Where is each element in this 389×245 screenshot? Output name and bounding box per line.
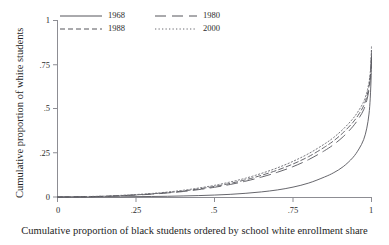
legend-line-sample-solid: [60, 11, 102, 21]
legend-label-1980: 1980: [203, 11, 220, 20]
y-axis-title: Cumulative proportion of white students: [14, 18, 26, 208]
y-tick-marks: [53, 21, 58, 198]
x-axis-title: Cumulative proportion of black students …: [0, 225, 389, 237]
data-curves: [58, 45, 372, 197]
legend: 1968 1980 1988 2000: [60, 8, 230, 38]
series-line-1988: [58, 51, 372, 198]
x-tick-label-05: .5: [211, 206, 217, 215]
legend-line-sample-long-dash: [155, 11, 197, 21]
series-line-1968: [58, 56, 372, 197]
legend-label-1968: 1968: [108, 11, 125, 20]
legend-label-2000: 2000: [203, 24, 220, 33]
x-tick-label-025: .25: [131, 206, 142, 215]
chart-figure: 1 .75 .5 .25 0 0 .25 .5 .75 1 Cumulative…: [0, 0, 389, 245]
legend-item-1980: 1980: [155, 9, 220, 22]
y-tick-label-0: 0: [30, 193, 50, 202]
y-tick-label-075: .75: [30, 61, 50, 70]
legend-item-1968: 1968: [60, 9, 125, 22]
legend-item-2000: 2000: [155, 22, 220, 35]
x-tick-label-075: .75: [288, 206, 299, 215]
legend-line-sample-dotted: [155, 24, 197, 34]
series-line-1980: [58, 52, 372, 197]
x-tick-marks: [58, 198, 372, 203]
y-tick-label-025: .25: [30, 149, 50, 158]
legend-line-sample-dash: [60, 24, 102, 34]
y-tick-label-1: 1: [30, 16, 50, 25]
x-tick-label-0: 0: [56, 206, 60, 215]
x-tick-label-1: 1: [369, 206, 373, 215]
legend-item-1988: 1988: [60, 22, 125, 35]
y-tick-label-05: .5: [30, 104, 50, 113]
legend-label-1988: 1988: [108, 24, 125, 33]
series-line-2000: [58, 45, 372, 197]
